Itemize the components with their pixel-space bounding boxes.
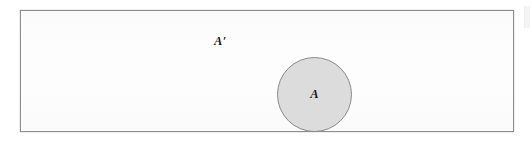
paper-tint-overlay (21, 11, 513, 131)
set-a-label: A (278, 58, 351, 131)
scan-edge-artifact (524, 6, 530, 28)
set-a-circle: A (277, 57, 352, 132)
venn-diagram-figure: A′ A (0, 0, 532, 143)
universal-set-rectangle: A′ A (20, 10, 514, 132)
complement-region-label: A′ (214, 35, 226, 48)
